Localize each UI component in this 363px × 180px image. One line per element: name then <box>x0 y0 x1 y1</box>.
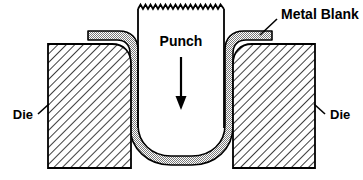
die-left-label: Die <box>13 107 33 122</box>
die-left-block <box>48 44 131 168</box>
punch-break-line-icon <box>138 5 224 10</box>
metal-blank-label: Metal Blank <box>281 6 359 22</box>
die-left <box>48 44 131 168</box>
die-right-block <box>233 44 315 168</box>
punch-direction-arrow-icon <box>176 57 187 110</box>
arrow-head <box>176 96 187 110</box>
diagram-canvas: Punch Metal Blank Die Die <box>0 0 363 180</box>
punch-label: Punch <box>160 33 203 49</box>
die-right <box>233 44 315 168</box>
die-right-label: Die <box>330 107 350 122</box>
deep-drawing-diagram: Punch Metal Blank Die Die <box>0 0 363 180</box>
